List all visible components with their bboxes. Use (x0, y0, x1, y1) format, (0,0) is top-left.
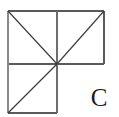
figure-label-c: C (86, 84, 112, 112)
diagonal-top-right-square-line (57, 11, 104, 64)
diagonal-top-left-square-line (8, 11, 57, 64)
diagonal-bottom-left-square-line (8, 64, 57, 113)
figure-container: C (0, 0, 119, 117)
